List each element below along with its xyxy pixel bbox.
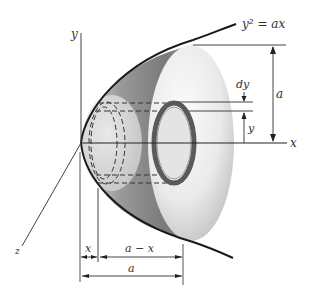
z-axis-label: z [14,246,20,256]
a-minus-x-arrow-left [100,255,107,259]
y-axis-label: y [70,27,78,41]
a-minus-x-arrow-right [175,255,182,259]
total-a-arrow-left [82,274,89,278]
x-arrow-right [91,255,97,259]
total-a-arrow-right [175,274,182,278]
height-arrow-top [270,46,276,54]
x-segment-label: x [85,242,92,255]
dy-label: dy [236,78,250,91]
a-minus-x-label: a − x [125,242,155,255]
total-a-label: a [128,262,135,275]
curve-equation-label: y² = ax [241,17,285,31]
x-axis-label: x [290,136,297,150]
height-arrow-bottom [270,134,276,142]
z-axis [22,143,81,246]
height-label: a [276,87,283,101]
y-arrow-head [242,112,247,119]
x-arrow-left [81,255,87,259]
paraboloid-shell-diagram: y x z y² = ax a dy y x a − x [0,0,313,301]
y-dimension-label: y [247,122,255,135]
dy-arrow-head [242,96,247,102]
